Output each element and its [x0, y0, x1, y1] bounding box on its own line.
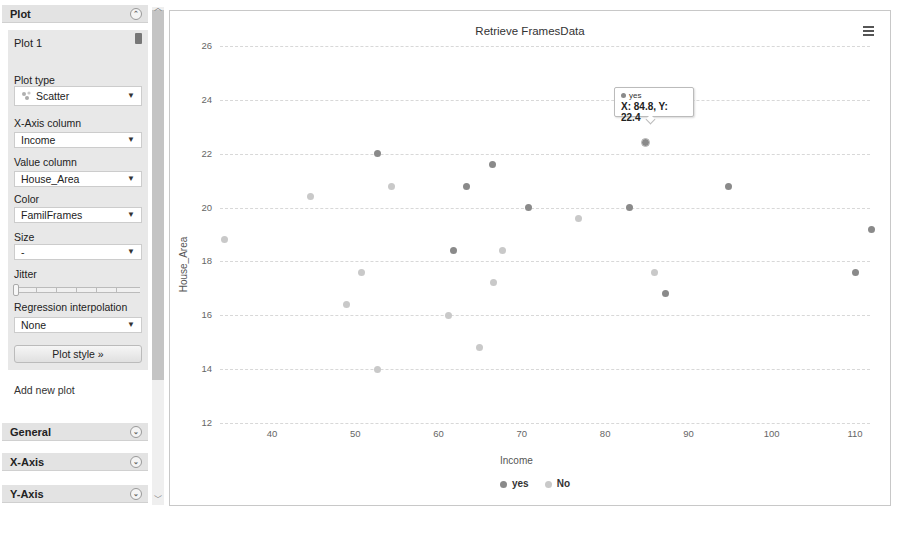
- sidebar-scrollbar-thumb[interactable]: [152, 10, 164, 380]
- x-tick-label: 90: [673, 428, 703, 439]
- data-point-yes[interactable]: [463, 183, 470, 190]
- data-point-yes[interactable]: [489, 161, 496, 168]
- data-point-yes[interactable]: [450, 247, 457, 254]
- data-point-yes[interactable]: [868, 226, 875, 233]
- plot-1-title: Plot 1: [14, 37, 42, 49]
- plot-area: 1214161820222426405060708090100110: [170, 11, 890, 505]
- chevron-down-icon: ▼: [127, 208, 135, 222]
- x-tick-label: 40: [257, 428, 287, 439]
- y-axis-label: House_Area: [178, 237, 189, 293]
- value-column-dropdown[interactable]: House_Area ▼: [14, 171, 142, 187]
- expand-icon[interactable]: ⌄: [130, 426, 142, 438]
- y-tick-label: 16: [192, 309, 212, 320]
- size-label: Size: [14, 231, 34, 243]
- x-axis-column-label: X-Axis column: [14, 117, 81, 129]
- collapse-icon[interactable]: ⌃: [130, 8, 142, 20]
- gridline: [220, 100, 870, 101]
- chevron-down-icon: ▼: [127, 172, 135, 186]
- data-point-yes[interactable]: [662, 290, 669, 297]
- legend-item-yes[interactable]: yes: [500, 478, 529, 489]
- x-axis-label: Income: [500, 455, 533, 466]
- trash-icon[interactable]: [135, 33, 142, 44]
- y-tick-label: 20: [192, 202, 212, 213]
- plot-type-dropdown[interactable]: Scatter ▼: [14, 86, 142, 106]
- gridline: [220, 46, 870, 47]
- chevron-down-icon: ▼: [127, 133, 135, 147]
- data-point-no[interactable]: [651, 269, 658, 276]
- x-tick-label: 70: [507, 428, 537, 439]
- app-root: Plot ⌃ Plot 1 Plot type Scatter ▼ X-Axis…: [0, 0, 909, 535]
- y-tick-label: 22: [192, 148, 212, 159]
- chevron-down-icon: ▼: [127, 318, 135, 332]
- jitter-slider-handle[interactable]: [13, 284, 19, 296]
- regression-interpolation-dropdown[interactable]: None ▼: [14, 317, 142, 333]
- sidebar: Plot ⌃ Plot 1 Plot type Scatter ▼ X-Axis…: [0, 0, 165, 535]
- data-point-yes[interactable]: [852, 269, 859, 276]
- gridline: [220, 423, 870, 424]
- gridline: [220, 208, 870, 209]
- data-point-no[interactable]: [374, 366, 381, 373]
- color-dropdown[interactable]: FamilFrames ▼: [14, 207, 142, 223]
- x-tick-label: 100: [757, 428, 787, 439]
- data-point-no[interactable]: [575, 215, 582, 222]
- plot-type-label: Plot type: [14, 74, 55, 86]
- x-tick-label: 60: [424, 428, 454, 439]
- jitter-slider[interactable]: [16, 287, 140, 293]
- gridline: [220, 369, 870, 370]
- data-point-no[interactable]: [343, 301, 350, 308]
- data-point-no[interactable]: [358, 269, 365, 276]
- data-point-no[interactable]: [307, 193, 314, 200]
- scatter-icon: [21, 88, 33, 106]
- data-point-no[interactable]: [499, 247, 506, 254]
- gridline: [220, 315, 870, 316]
- data-point-no[interactable]: [476, 344, 483, 351]
- x-tick-label: 110: [840, 428, 870, 439]
- y-axis-panel-header[interactable]: Y-Axis ⌄: [2, 485, 148, 503]
- plot-header-label: Plot: [10, 8, 31, 20]
- y-tick-label: 26: [192, 40, 212, 51]
- legend: yes No: [500, 478, 570, 489]
- data-point-yes[interactable]: [626, 204, 633, 211]
- x-axis-column-dropdown[interactable]: Income ▼: [14, 132, 142, 148]
- scroll-down-arrow[interactable]: ﹀: [152, 495, 164, 505]
- expand-icon[interactable]: ⌄: [130, 456, 142, 468]
- x-axis-panel-header[interactable]: X-Axis ⌄: [2, 453, 148, 471]
- data-point-yes[interactable]: [725, 183, 732, 190]
- y-tick-label: 24: [192, 94, 212, 105]
- general-panel-header[interactable]: General ⌄: [2, 423, 148, 441]
- value-column-label: Value column: [14, 156, 77, 168]
- legend-item-no[interactable]: No: [545, 478, 570, 489]
- tooltip: yes X: 84.8, Y: 22.4: [614, 87, 694, 117]
- color-label: Color: [14, 193, 39, 205]
- gridline: [220, 261, 870, 262]
- expand-icon[interactable]: ⌄: [130, 488, 142, 500]
- add-new-plot-link[interactable]: Add new plot: [14, 384, 75, 396]
- chevron-down-icon: ▼: [127, 87, 135, 105]
- y-tick-label: 18: [192, 255, 212, 266]
- size-dropdown[interactable]: - ▼: [14, 244, 142, 260]
- data-point-no[interactable]: [490, 279, 497, 286]
- data-point-no[interactable]: [388, 183, 395, 190]
- jitter-label: Jitter: [14, 268, 37, 280]
- regression-interpolation-label: Regression interpolation: [14, 301, 127, 313]
- gridline: [220, 154, 870, 155]
- plot-panel-header[interactable]: Plot ⌃: [2, 5, 148, 23]
- data-point-no[interactable]: [445, 312, 452, 319]
- data-point-no[interactable]: [221, 236, 228, 243]
- plot-style-button[interactable]: Plot style »: [14, 345, 142, 363]
- chart-container: Retrieve FramesData 12141618202224264050…: [169, 10, 891, 506]
- x-tick-label: 50: [340, 428, 370, 439]
- hover-marker: [641, 138, 650, 147]
- scroll-up-arrow[interactable]: ︿: [152, 3, 164, 13]
- y-tick-label: 14: [192, 363, 212, 374]
- data-point-yes[interactable]: [525, 204, 532, 211]
- x-tick-label: 80: [590, 428, 620, 439]
- chevron-down-icon: ▼: [127, 245, 135, 259]
- y-tick-label: 12: [192, 417, 212, 428]
- data-point-yes[interactable]: [374, 150, 381, 157]
